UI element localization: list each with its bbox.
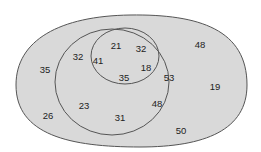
nested-venn-diagram: 213241183532532348314835192650 (0, 0, 261, 152)
region-value-label: 48 (152, 98, 163, 109)
region-value-label: 41 (93, 55, 104, 66)
region-value-label: 23 (79, 100, 90, 111)
region-value-label: 21 (111, 40, 122, 51)
region-value-label: 31 (115, 112, 126, 123)
region-value-label: 48 (195, 39, 206, 50)
region-value-label: 32 (136, 43, 147, 54)
region-value-label: 53 (164, 72, 175, 83)
region-value-label: 50 (176, 125, 187, 136)
region-value-label: 35 (40, 64, 51, 75)
region-value-label: 18 (141, 62, 152, 73)
region-value-label: 35 (119, 72, 130, 83)
region-value-label: 26 (43, 110, 54, 121)
region-value-label: 19 (210, 81, 221, 92)
region-value-label: 32 (73, 51, 84, 62)
